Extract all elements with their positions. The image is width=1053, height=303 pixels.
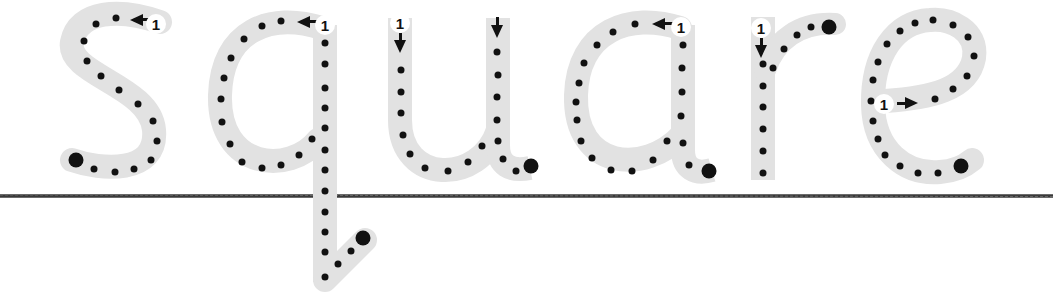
stroke-number-label: 1 <box>757 20 765 37</box>
stroke-number-label: 1 <box>396 15 404 32</box>
letter-u: 1 <box>390 13 539 175</box>
letter-a: 1 <box>573 17 717 179</box>
letter-e: 1 <box>868 17 978 177</box>
end-dot <box>69 153 84 168</box>
baseline <box>0 195 1053 197</box>
stroke-number-label: 1 <box>880 96 888 113</box>
end-dot <box>822 20 837 35</box>
letter-r: 1 <box>751 17 837 180</box>
end-dot <box>954 159 969 174</box>
end-dot <box>356 231 371 246</box>
letter-s: 1 <box>69 14 167 176</box>
letter-tracing-worksheet: 1 1 <box>0 0 1053 303</box>
letter-q: 1 <box>218 15 371 282</box>
stroke-number-label: 1 <box>677 19 685 36</box>
stroke-number-label: 1 <box>152 16 160 33</box>
end-dot <box>524 159 539 174</box>
stroke-number-label: 1 <box>321 17 329 34</box>
end-dot <box>702 164 717 179</box>
